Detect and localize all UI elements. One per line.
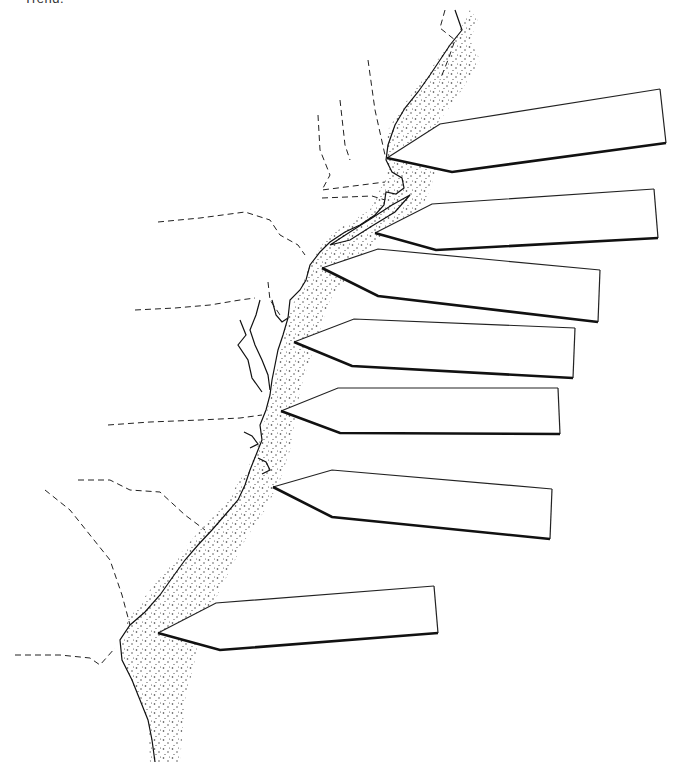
state-border xyxy=(368,60,385,155)
state-border xyxy=(135,298,255,310)
state-border xyxy=(318,115,385,190)
label-arrow-3[interactable] xyxy=(322,249,600,322)
state-border xyxy=(108,415,262,425)
state-border xyxy=(15,648,115,665)
label-arrow-6[interactable] xyxy=(273,470,552,539)
state-border xyxy=(158,212,305,255)
state-border xyxy=(340,100,350,160)
coastline-map xyxy=(0,0,674,762)
state-border xyxy=(78,480,205,530)
label-arrow-5[interactable] xyxy=(281,388,560,434)
label-arrow-4[interactable] xyxy=(294,319,575,378)
state-border xyxy=(45,490,130,625)
continental-shelf xyxy=(120,10,480,762)
